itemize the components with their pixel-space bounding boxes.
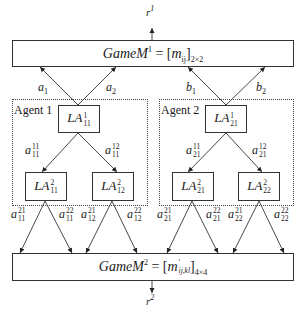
game-matrix-1-box: GameM1 = [mij]2×2 xyxy=(12,40,294,67)
reward-r1-label: r1 xyxy=(146,6,154,18)
action-label-b2: b2 xyxy=(256,80,266,95)
action-label-a2: a2 xyxy=(106,80,116,95)
action-label-a12-11: a1211 xyxy=(105,143,120,159)
learning-automaton-la1-11: LA111 xyxy=(58,105,100,133)
action-label-a21-21: a2121 xyxy=(157,207,172,223)
agent-2-label: Agent 2 xyxy=(161,103,199,118)
action-label-a21-12: a2112 xyxy=(81,207,96,223)
learning-automaton-la1-21: LA121 xyxy=(205,105,247,133)
learning-automaton-la2-12: LA212 xyxy=(92,172,134,201)
action-label-a21-11: a2111 xyxy=(11,207,26,223)
learning-automaton-la2-22: LA222 xyxy=(238,172,280,201)
agent-1-label: Agent 1 xyxy=(14,103,52,118)
action-label-a21-22: a2122 xyxy=(228,207,243,223)
action-label-a22-11: a2211 xyxy=(59,207,74,223)
action-label-a22-12: a2212 xyxy=(127,207,142,223)
action-label-a22-21: a2221 xyxy=(206,207,221,223)
game-matrix-2-formula: GameM2 = [m′ij,kl]4×4 xyxy=(99,259,207,276)
learning-automaton-la2-21: LA221 xyxy=(172,172,214,201)
action-label-a1: a1 xyxy=(38,80,48,95)
learning-automaton-la2-11: LA211 xyxy=(25,172,67,201)
action-label-a22-22: a2222 xyxy=(274,207,289,223)
reward-r2-label: r2 xyxy=(146,295,154,307)
action-label-a12-21: a1221 xyxy=(252,143,267,159)
action-label-a11-21: a1121 xyxy=(186,143,201,159)
game-matrix-1-formula: GameM1 = [mij]2×2 xyxy=(103,46,203,62)
action-label-a11-11: a1111 xyxy=(25,143,39,159)
action-label-b1: b1 xyxy=(186,80,196,95)
game-matrix-2-box: GameM2 = [m′ij,kl]4×4 xyxy=(12,253,294,281)
